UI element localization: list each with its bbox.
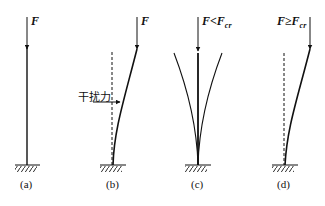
force-label-a: F bbox=[31, 14, 39, 29]
panel-a bbox=[15, 17, 40, 172]
caption-b: (b) bbox=[106, 178, 119, 190]
deflected-column bbox=[285, 49, 310, 165]
column-buckling-diagram bbox=[0, 0, 325, 206]
fixed-support bbox=[272, 165, 298, 172]
force-label-c: F<Fcr bbox=[202, 14, 232, 30]
fixed-support bbox=[100, 165, 126, 172]
deflected-column bbox=[113, 49, 137, 165]
caption-a: (a) bbox=[20, 178, 32, 190]
fixed-support bbox=[185, 165, 211, 172]
panel-d bbox=[272, 17, 310, 172]
disturbance-force-label: 干扰力 bbox=[78, 88, 111, 104]
fixed-support bbox=[15, 165, 40, 172]
panel-c bbox=[174, 17, 222, 172]
force-label-b: F bbox=[141, 14, 149, 29]
deflected-curve-right bbox=[198, 53, 222, 165]
force-label-d: F≥Fcr bbox=[277, 14, 306, 30]
caption-d: (d) bbox=[277, 178, 290, 190]
deflected-curve-left bbox=[174, 53, 198, 165]
caption-c: (c) bbox=[191, 178, 203, 190]
